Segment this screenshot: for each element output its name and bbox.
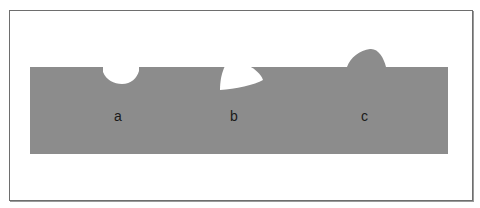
label-b: b — [230, 108, 238, 124]
label-c: c — [361, 108, 368, 124]
surface-bar — [30, 49, 448, 154]
surface-diagram — [0, 0, 480, 208]
label-a: a — [114, 108, 122, 124]
